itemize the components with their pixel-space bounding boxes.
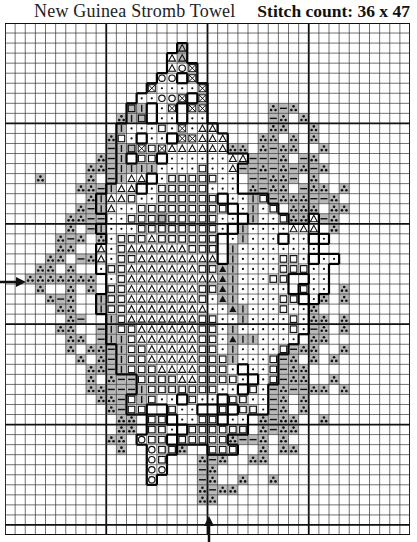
stitch-symbol xyxy=(242,198,244,200)
stitch-symbol xyxy=(262,398,264,400)
stitch-symbol xyxy=(110,258,112,260)
stitch-symbol xyxy=(169,245,176,252)
stitch-symbol xyxy=(209,416,216,423)
stitch-symbol xyxy=(292,238,294,240)
stitch-symbol xyxy=(171,167,173,169)
stitch-symbol xyxy=(189,336,196,343)
stitch-symbol xyxy=(138,205,145,212)
stitch-symbol xyxy=(171,87,173,89)
stitch-symbol xyxy=(149,436,156,443)
stitch-symbol xyxy=(158,255,165,262)
stitch-symbol xyxy=(138,236,145,243)
stitch-symbol xyxy=(171,398,173,400)
stitch-symbol xyxy=(191,87,193,89)
stitch-symbol xyxy=(272,238,274,240)
stitch-symbol xyxy=(290,326,297,333)
stitch-symbol xyxy=(169,446,176,453)
stitch-symbol xyxy=(128,236,135,243)
stitch-symbol xyxy=(138,366,145,373)
stitch-symbol xyxy=(209,336,216,343)
stitch-symbol xyxy=(128,406,135,413)
stitch-symbol xyxy=(222,348,224,350)
stitch-symbol xyxy=(149,396,156,403)
stitch-symbol xyxy=(199,215,206,222)
stitch-symbol xyxy=(262,228,264,230)
stitch-symbol xyxy=(222,228,224,230)
stitch-symbol xyxy=(158,286,165,293)
stitch-symbol xyxy=(229,155,236,162)
stitch-symbol xyxy=(199,165,206,172)
stitch-symbol xyxy=(149,366,156,373)
stitch-symbol xyxy=(219,436,226,443)
stitch-symbol xyxy=(290,266,297,273)
stitch-symbol xyxy=(128,296,135,303)
stitch-symbol xyxy=(138,316,145,323)
stitch-symbol xyxy=(179,336,186,343)
stitch-symbol xyxy=(240,426,247,433)
stitch-symbol xyxy=(128,316,135,323)
stitch-symbol xyxy=(323,288,325,290)
stitch-symbol xyxy=(252,258,254,260)
stitch-symbol xyxy=(230,446,237,453)
stitch-symbol xyxy=(262,378,264,380)
stitch-symbol xyxy=(290,225,297,232)
stitch-symbol xyxy=(280,276,287,283)
stitch-symbol xyxy=(242,208,244,210)
stitch-symbol xyxy=(169,296,176,303)
stitch-symbol xyxy=(222,338,224,340)
stitch-symbol xyxy=(130,127,132,129)
stitch-symbol xyxy=(189,366,196,373)
stitch-symbol xyxy=(128,265,135,272)
stitch-symbol xyxy=(280,296,287,303)
stitch-symbol xyxy=(169,185,176,192)
stitch-symbol xyxy=(252,348,254,350)
stitch-symbol xyxy=(242,328,244,330)
stitch-symbol xyxy=(282,248,284,250)
stitch-symbol xyxy=(272,268,274,270)
stitch-symbol xyxy=(189,226,196,233)
stitch-symbol xyxy=(199,255,206,262)
stitch-symbol xyxy=(138,336,145,343)
stitch-symbol xyxy=(179,215,186,222)
stitch-symbol xyxy=(232,388,234,390)
stitch-symbol xyxy=(169,276,176,283)
stitch-symbol xyxy=(260,195,267,202)
stitch-symbol xyxy=(159,226,166,233)
stitch-symbol xyxy=(270,205,277,212)
stitch-symbol xyxy=(262,278,264,280)
stitch-symbol xyxy=(138,255,145,262)
stitch-symbol xyxy=(209,376,216,383)
stitch-symbol xyxy=(262,408,264,410)
stitch-symbol xyxy=(252,238,254,240)
stitch-symbol xyxy=(252,248,254,250)
stitch-symbol xyxy=(110,278,112,280)
stitch-symbol xyxy=(148,286,155,293)
stitch-symbol xyxy=(209,276,216,283)
stitch-symbol xyxy=(199,175,206,182)
stitch-symbol xyxy=(222,188,224,190)
stitch-symbol xyxy=(128,346,135,353)
stitch-symbol xyxy=(272,298,274,300)
stitch-symbol xyxy=(148,276,155,283)
stitch-symbol xyxy=(250,406,257,413)
stitch-symbol xyxy=(209,366,216,373)
stitch-symbol xyxy=(209,446,216,453)
stitch-symbol xyxy=(138,215,145,222)
stitch-symbol xyxy=(138,436,144,442)
stitch-symbol xyxy=(149,426,156,433)
stitch-symbol xyxy=(128,185,135,192)
stitch-symbol xyxy=(108,266,115,273)
stitch-symbol xyxy=(110,238,112,240)
stitch-symbol xyxy=(240,396,247,403)
stitch-symbol xyxy=(252,228,254,230)
stitch-symbol xyxy=(151,198,153,200)
stitch-symbol xyxy=(303,328,305,330)
stitch-symbol xyxy=(323,258,325,260)
stitch-symbol xyxy=(211,298,213,300)
stitch-symbol xyxy=(199,296,206,303)
stitch-symbol xyxy=(230,376,237,383)
stitch-symbol xyxy=(158,245,165,252)
stitch-symbol xyxy=(161,117,163,119)
stitch-symbol xyxy=(211,398,213,400)
stitch-symbol xyxy=(169,366,176,373)
